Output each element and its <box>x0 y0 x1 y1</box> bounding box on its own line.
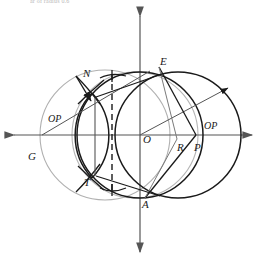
ray-OP-left-arrow <box>76 76 91 101</box>
tick-arc-lower <box>100 188 126 191</box>
label-region-G: G <box>28 150 36 162</box>
figure-canvas: ar of radius 0.6 <box>0 0 266 267</box>
label-point-A: A <box>142 198 149 210</box>
label-point-T: T <box>84 176 90 188</box>
label-point-P: P <box>194 141 201 153</box>
label-point-R: R <box>177 141 184 153</box>
chord-P-to-A <box>145 135 196 198</box>
chord-E-to-P <box>159 67 196 135</box>
label-point-E: E <box>160 55 167 67</box>
label-point-N: N <box>83 67 90 79</box>
label-segment-OP-left: OP <box>48 113 61 124</box>
geometry-svg <box>0 0 266 267</box>
ray-OP-left <box>42 71 150 135</box>
label-segment-OP-right: OP <box>204 120 217 131</box>
segment-T-to-A <box>96 176 160 196</box>
segment-N-to-E <box>96 74 162 97</box>
label-point-O: O <box>143 133 151 145</box>
